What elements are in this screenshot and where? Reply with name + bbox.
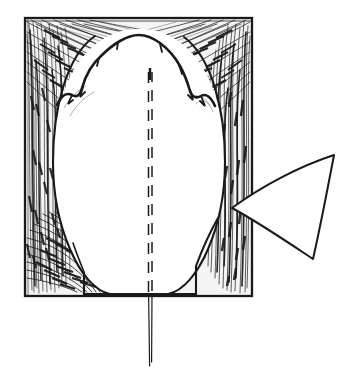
illustration-canvas xyxy=(0,0,358,386)
figure-root: Pen-and-ink drawing: a rectangular block… xyxy=(0,0,358,386)
central-oval-mass-fill xyxy=(53,29,225,294)
